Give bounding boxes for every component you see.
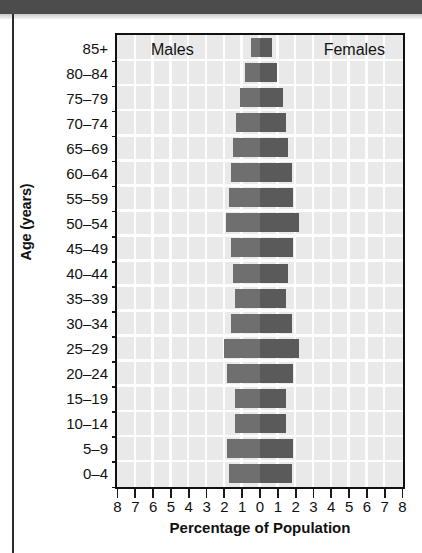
bar-male [235,289,260,308]
y-axis-tick-label: 70–74 [66,111,108,136]
bar-male [229,188,259,207]
bar-female [260,63,278,82]
pyramid-row [117,286,403,311]
legend-label-males: Males [151,37,194,62]
x-axis-tick-mark [259,489,261,498]
x-axis-tick-mark [384,489,386,498]
y-axis-tick-label: 10–14 [66,411,108,436]
x-axis-tick-mark [206,489,208,498]
pyramid-row [117,261,403,286]
bar-female [260,439,294,458]
x-axis-tick-mark [152,489,154,498]
y-axis-tick-label: 15–19 [66,386,108,411]
pyramid-row [117,361,403,386]
pyramid-row [117,110,403,135]
y-axis-tick-label: 20–24 [66,361,108,386]
pyramid-row [117,411,403,436]
x-axis-tick-mark [223,489,225,498]
y-axis-tick-label: 45–49 [66,236,108,261]
y-axis-tick-labels: 85+80–8475–7970–7465–6960–6455–5950–5445… [40,33,112,489]
y-axis-tick-label: 75–79 [66,86,108,111]
x-axis-tick-mark [277,489,279,498]
x-axis-tick-mark [170,489,172,498]
pyramid-row [117,336,403,361]
bar-male [236,113,259,132]
bar-male [226,213,260,232]
bar-female [260,464,292,483]
bar-male [240,88,260,107]
bar-female [260,389,287,408]
bar-female [260,264,289,283]
y-axis-tick-label: 40–44 [66,261,108,286]
y-axis-tick-label: 65–69 [66,136,108,161]
bar-female [260,163,292,182]
bar-male [235,389,260,408]
bar-female [260,314,292,333]
x-axis-tick-mark [134,489,136,498]
y-axis-tick-label: 30–34 [66,311,108,336]
pyramid-row [117,461,403,486]
x-axis-tick-labels: 87654321012345678 [115,498,405,518]
y-axis-tick-label: 55–59 [66,186,108,211]
bar-female [260,339,299,358]
bar-male [233,138,260,157]
bar-female [260,188,294,207]
bar-female [260,138,289,157]
bar-female [260,88,283,107]
x-axis-tick-mark [313,489,315,498]
legend-label-females: Females [324,37,385,62]
bar-male [231,163,260,182]
pyramid-row [117,386,403,411]
y-axis-tick-label: 50–54 [66,211,108,236]
bar-male [227,439,259,458]
x-axis-tick-mark [348,489,350,498]
x-axis-tick-mark [117,489,119,498]
pyramid-row [117,160,403,185]
x-axis-tick-mark [402,489,404,498]
x-axis-ticks [115,489,405,498]
pyramid-row [117,210,403,235]
y-axis-tick-label: 35–39 [66,286,108,311]
pyramid-row [117,436,403,461]
bar-female [260,38,272,57]
y-axis-tick-label: 25–29 [66,336,108,361]
x-axis-tick-label: 8 [393,498,413,515]
bar-male [251,38,260,57]
x-axis-tick-mark [295,489,297,498]
bar-female [260,414,287,433]
bar-female [260,364,294,383]
bar-male [245,63,259,82]
bar-male [233,264,260,283]
x-axis-tick-mark [241,489,243,498]
bar-female [260,113,287,132]
page-top-band [0,0,422,14]
y-axis-tick-label: 80–84 [66,61,108,86]
pyramid-row [117,135,403,160]
bar-male [231,238,260,257]
x-axis-tick-mark [366,489,368,498]
population-pyramid-figure: Age (years) 85+80–8475–7970–7465–6960–64… [0,19,422,553]
bar-female [260,289,287,308]
plot-area [117,35,403,487]
bar-male [227,364,259,383]
y-axis-tick-label: 85+ [83,36,108,61]
bar-male [231,314,260,333]
plot-frame: Males Females [115,33,405,489]
bar-male [224,339,260,358]
bar-female [260,238,294,257]
x-axis-tick-mark [188,489,190,498]
pyramid-row [117,185,403,210]
y-axis-tick-label: 5–9 [83,436,108,461]
bar-female [260,213,299,232]
x-axis-title: Percentage of Population [100,519,420,536]
y-axis-tick-label: 0–4 [83,461,108,486]
pyramid-row [117,85,403,110]
pyramid-row [117,311,403,336]
pyramid-row [117,235,403,260]
pyramid-row [117,60,403,85]
bar-male [235,414,260,433]
y-axis-title: Age (years) [18,162,34,282]
bar-male [229,464,259,483]
x-axis-tick-mark [330,489,332,498]
y-axis-tick-label: 60–64 [66,161,108,186]
